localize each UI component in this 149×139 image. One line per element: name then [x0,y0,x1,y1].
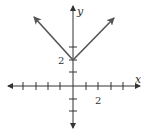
x-tick-label-2: 2 [95,95,101,106]
y-tick-label-2: 2 [58,55,64,66]
curve-right [73,18,114,60]
x-axis-label: x [135,73,142,86]
graph: y x 2 2 [0,0,149,139]
y-axis-label: y [76,5,84,18]
curve-left [34,17,73,60]
